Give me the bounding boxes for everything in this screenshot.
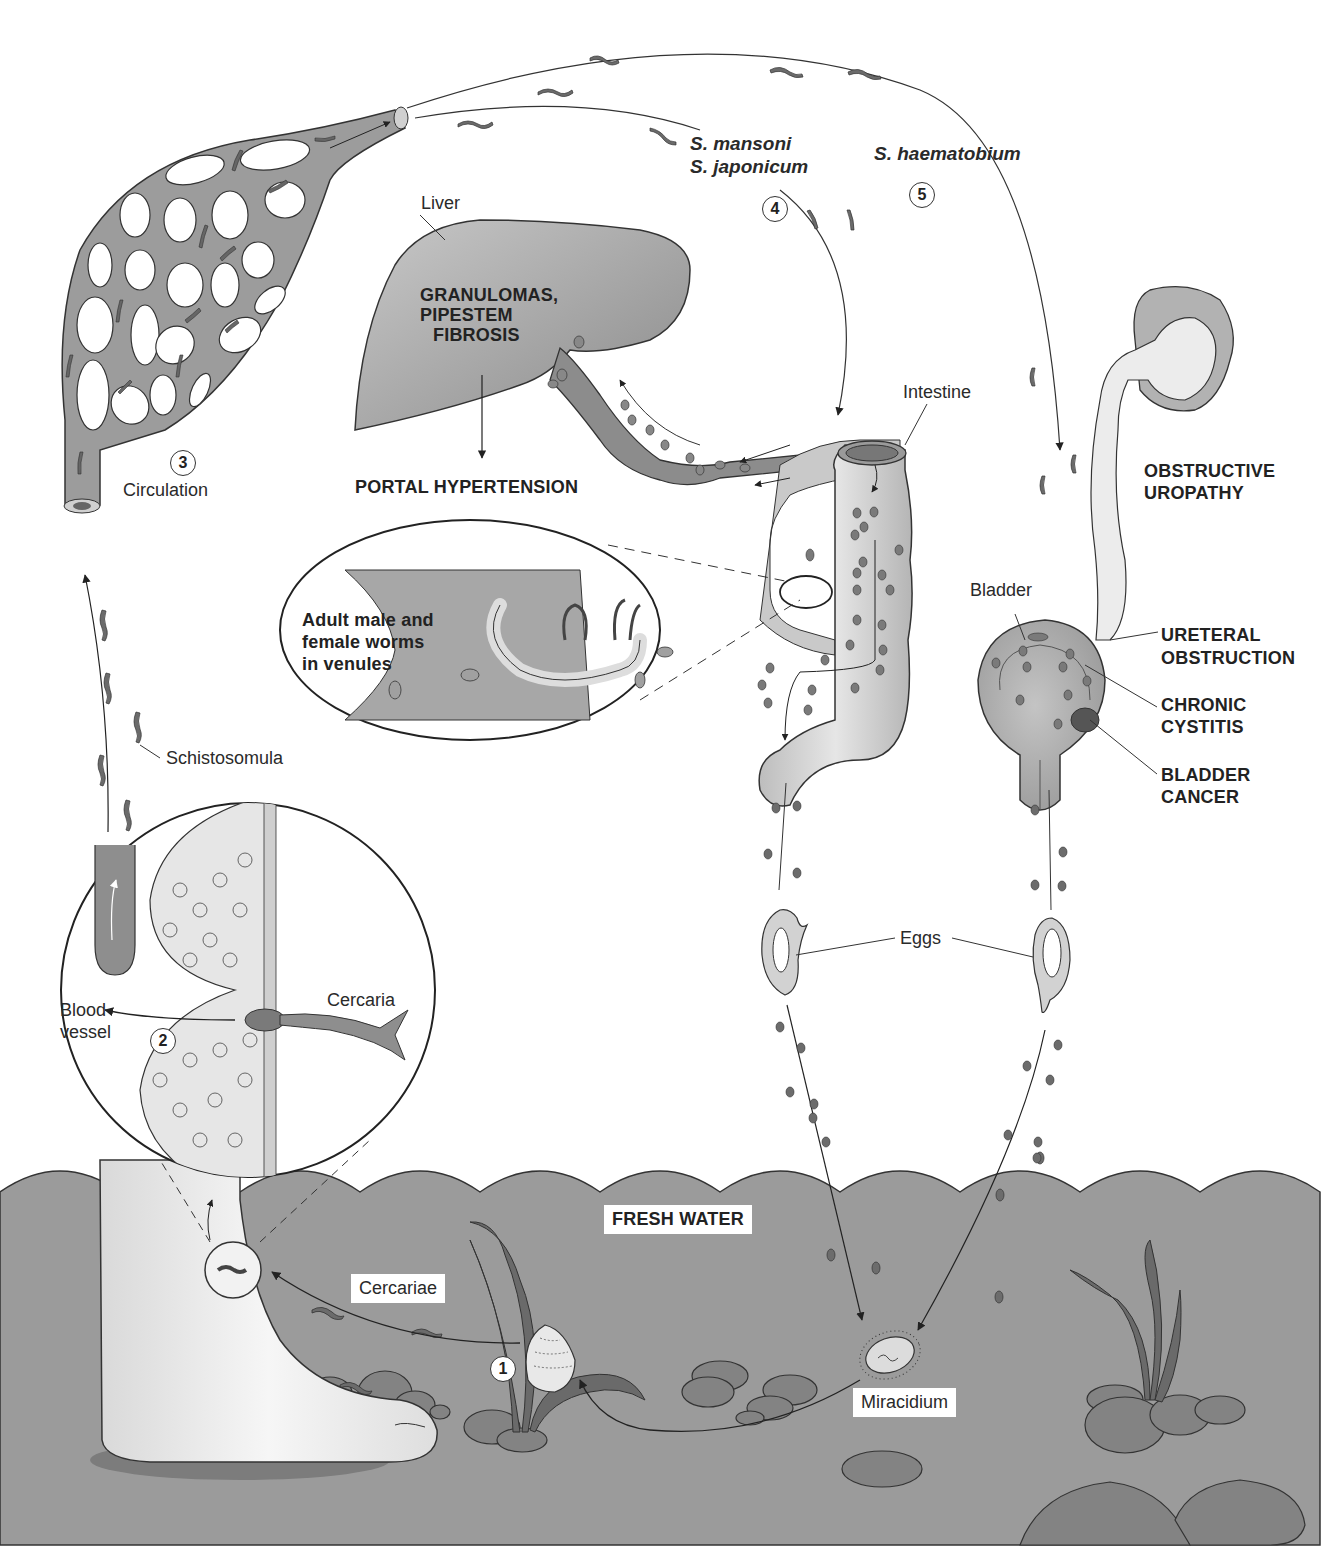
- chronic-cystitis-line-1: CHRONIC: [1161, 695, 1246, 716]
- egg-haematobium-icon: [1033, 918, 1070, 1013]
- step-2-marker: 2: [150, 1028, 176, 1054]
- s-haematobium-label: S. haematobium: [874, 143, 1021, 165]
- circulation-label: Circulation: [123, 480, 208, 501]
- chronic-cystitis-line-2: CYSTITIS: [1161, 717, 1244, 738]
- miracidium-label: Miracidium: [853, 1388, 956, 1417]
- schistosomiasis-life-cycle-diagram: 3 Circulation S. mansoni S. japonicum S.…: [0, 0, 1330, 1559]
- fresh-water-label: FRESH WATER: [604, 1205, 752, 1234]
- liver-effect-line-1: GRANULOMAS,: [420, 285, 558, 306]
- blood-vessel-line-2: vessel: [60, 1022, 111, 1043]
- cercariae-label: Cercariae: [351, 1274, 445, 1303]
- step-3-marker: 3: [170, 450, 196, 476]
- bladder-cancer-line-1: BLADDER: [1161, 765, 1250, 786]
- bladder-cancer-line-2: CANCER: [1161, 787, 1239, 808]
- intestine-label: Intestine: [903, 382, 971, 403]
- step-5-marker: 5: [909, 182, 935, 208]
- obstructive-uropathy-line-2: UROPATHY: [1144, 483, 1244, 504]
- adult-worms-line-1: Adult male and: [302, 610, 434, 631]
- step-4-marker: 4: [762, 196, 788, 222]
- diagram-artwork: [0, 0, 1330, 1559]
- obstructive-uropathy-line-1: OBSTRUCTIVE: [1144, 461, 1275, 482]
- adult-worms-line-3: in venules: [302, 654, 392, 675]
- liver-label: Liver: [421, 193, 460, 214]
- s-mansoni-label: S. mansoni: [690, 133, 791, 155]
- bladder-label: Bladder: [970, 580, 1032, 601]
- cercaria-label: Cercaria: [327, 990, 395, 1011]
- schistosomula-label: Schistosomula: [166, 748, 283, 769]
- blood-vessel-line-1: Blood: [60, 1000, 106, 1021]
- adult-worms-line-2: female worms: [302, 632, 424, 653]
- circulation-network: [62, 107, 408, 513]
- bladder: [978, 614, 1158, 810]
- liver: [355, 215, 800, 485]
- liver-effect-line-3: FIBROSIS: [433, 325, 520, 346]
- step-1-marker: 1: [490, 1356, 516, 1382]
- eggs-label: Eggs: [897, 928, 944, 949]
- liver-effect-line-2: PIPESTEM: [420, 305, 513, 326]
- ureteral-obstruction-line-2: OBSTRUCTION: [1161, 648, 1295, 669]
- s-japonicum-label: S. japonicum: [690, 156, 808, 178]
- portal-hypertension-label: PORTAL HYPERTENSION: [355, 477, 578, 498]
- egg-mansoni-icon: [762, 910, 807, 995]
- ureteral-obstruction-line-1: URETERAL: [1161, 625, 1261, 646]
